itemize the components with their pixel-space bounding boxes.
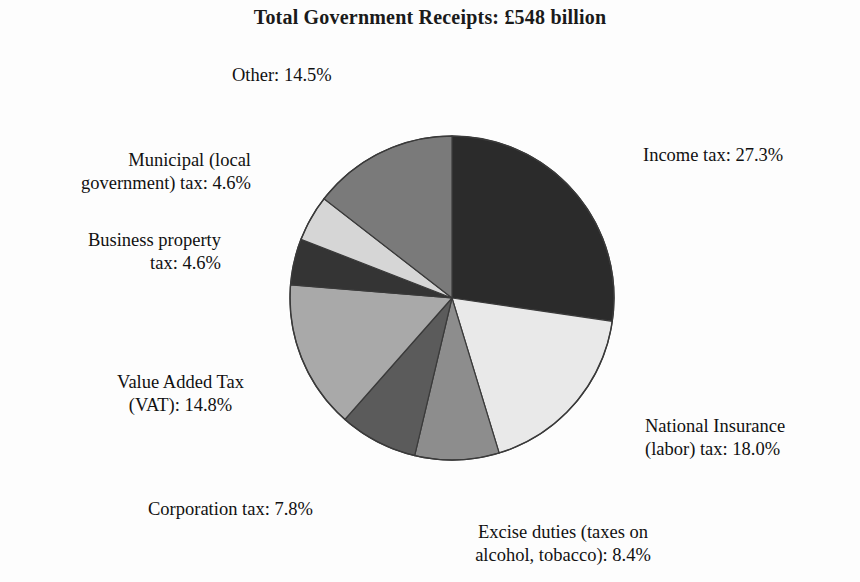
slice-label-business-property: Business property tax: 4.6%: [63, 229, 221, 275]
slice-label-municipal-tax: Municipal (local government) tax: 4.6%: [27, 149, 251, 195]
pie-chart: [0, 0, 860, 582]
pie-slice-group: [290, 136, 614, 460]
slice-label-national-insurance: National Insurance (labor) tax: 18.0%: [645, 415, 785, 461]
slice-label-value-added-tax: Value Added Tax (VAT): 14.8%: [88, 371, 273, 417]
slice-label-income-tax: Income tax: 27.3%: [643, 144, 783, 167]
pie-slice: [452, 136, 614, 321]
slice-label-excise-duties: Excise duties (taxes on alcohol, tobacco…: [443, 521, 683, 567]
pie-chart-figure: Total Government Receipts: £548 billion …: [0, 0, 860, 582]
slice-label-corporation-tax: Corporation tax: 7.8%: [148, 498, 313, 521]
slice-label-other: Other: 14.5%: [232, 64, 332, 87]
